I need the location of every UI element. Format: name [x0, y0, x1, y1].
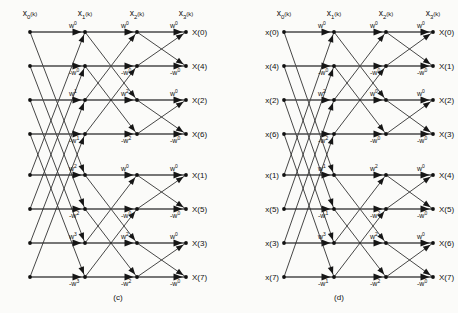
edge-arrowhead	[377, 124, 384, 132]
input-label-3: x(6)	[265, 130, 279, 139]
node-stage2-row2	[135, 98, 139, 102]
edge-arrowhead	[176, 102, 184, 109]
node-stage2-row4	[384, 173, 388, 177]
node-stage3-row0	[431, 30, 435, 34]
weight-s1-row5: -w1	[318, 210, 328, 219]
weight-s1-row7: -w3	[69, 278, 79, 287]
node-stage0-row7	[282, 275, 286, 279]
node-stage3-row1	[184, 64, 188, 68]
node-stage1-row2	[83, 98, 87, 102]
stage-label-3: x3(k)	[179, 8, 194, 20]
node-stage3-row3	[431, 132, 435, 136]
panel-c-svg: x0(k)x1(k)x2(k)x3(k) w0-w0w1-w1w2-w2w3-w…	[0, 0, 229, 313]
node-stage3-row5	[184, 207, 188, 211]
node-stage1-row6	[83, 241, 87, 245]
node-stage0-row5	[28, 207, 32, 211]
edge-arrowhead	[423, 268, 431, 275]
node-stage2-row5	[135, 207, 139, 211]
node-stage0-row2	[282, 98, 286, 102]
panel-c-fft-flowgraph: x0(k)x1(k)x2(k)x3(k) w0-w0w1-w1w2-w2w3-w…	[0, 0, 229, 313]
w-exponent: 0	[76, 67, 79, 73]
edge-arrowhead	[423, 200, 431, 207]
weight-s1-row2: w1	[68, 88, 77, 97]
node-stage0-row4	[28, 173, 32, 177]
w-exponent: 2	[126, 231, 129, 237]
weight-s1-row3: -w1	[69, 135, 79, 144]
w-exponent: 0	[323, 20, 326, 26]
figure-container: x0(k)x1(k)x2(k)x3(k) w0-w0w1-w1w2-w2w3-w…	[0, 0, 458, 313]
output-label-2: X(2)	[439, 96, 454, 105]
panel-c-io-labels: X(0)X(4)X(2)X(6)X(1)X(5)X(3)X(7)	[192, 28, 207, 282]
output-label-6: X(3)	[192, 239, 207, 248]
w-exponent: 1	[74, 88, 77, 94]
weight-s3-row4: w0	[416, 163, 425, 172]
panel-d-stage-labels: x0(k)x1(k)x2(k)x3(k)	[277, 8, 441, 20]
edge-arrowhead	[374, 240, 383, 247]
output-label-6: X(6)	[439, 239, 454, 248]
output-label-4: X(4)	[439, 171, 454, 180]
edge-arrowhead	[128, 267, 135, 275]
w-exponent: 0	[177, 210, 180, 216]
node-stage3-row4	[184, 173, 188, 177]
edge-arrowhead	[125, 97, 134, 104]
weight-s1-row0: w0	[317, 20, 326, 29]
node-stage2-row7	[135, 275, 139, 279]
edge-arrowhead	[374, 29, 383, 36]
panel-d-edges	[284, 29, 433, 281]
edge-arrowhead	[421, 97, 430, 104]
node-stage0-row2	[28, 98, 32, 102]
node-stage2-row6	[384, 241, 388, 245]
weight-s3-row1: -w0	[417, 67, 427, 76]
panel-d-weight-labels: w0-w0w2-w2w1-w1w3-w1w0-w0w0-w0w2-w2w2-w2…	[317, 20, 427, 287]
node-stage2-row3	[384, 132, 388, 136]
weight-s3-row4: w0	[169, 163, 178, 172]
edge-arrowhead	[328, 198, 333, 206]
w-exponent: 0	[422, 163, 425, 169]
output-label-7: X(7)	[192, 273, 207, 282]
node-stage0-row0	[282, 30, 286, 34]
weight-s3-row1: -w0	[170, 67, 180, 76]
input-label-6: x(3)	[265, 239, 279, 248]
edge-arrowhead	[128, 233, 135, 241]
edge-arrowhead	[128, 124, 135, 132]
w-exponent: 0	[325, 67, 328, 73]
w-exponent: 0	[424, 278, 427, 284]
weight-s2-row3: -w2	[121, 135, 131, 144]
node-stage1-row3	[332, 132, 336, 136]
node-stage1-row4	[83, 173, 87, 177]
edge-arrowhead	[176, 58, 184, 65]
weight-s2-row4: w2	[369, 163, 378, 172]
edge-arrowhead	[79, 198, 84, 206]
stage-label-arg: (k)	[137, 11, 144, 17]
edge-arrowhead	[79, 232, 84, 240]
stage-label-arg: (k)	[30, 11, 37, 17]
w-exponent: 0	[128, 210, 131, 216]
edge-arrowhead	[328, 232, 333, 240]
node-stage2-row0	[135, 30, 139, 34]
output-label-5: X(5)	[192, 205, 207, 214]
w-exponent: 0	[175, 88, 178, 94]
edge-arrowhead	[377, 233, 384, 241]
edge-arrowhead	[73, 97, 82, 104]
edge-arrowhead	[79, 164, 84, 172]
w-exponent: 0	[422, 88, 425, 94]
weight-s1-row5: -w2	[69, 210, 79, 219]
w-exponent: 0	[424, 210, 427, 216]
weight-s3-row7: -w0	[417, 278, 427, 287]
node-stage2-row4	[135, 173, 139, 177]
w-exponent: 0	[175, 231, 178, 237]
stage-label-arg: (k)	[85, 11, 92, 17]
node-stage3-row6	[431, 241, 435, 245]
edge-arrowhead	[328, 137, 333, 145]
edge-arrowhead	[377, 34, 384, 42]
w-exponent: 2	[76, 210, 79, 216]
node-stage0-row6	[28, 241, 32, 245]
node-stage0-row7	[28, 275, 32, 279]
panel-c-edges	[30, 29, 186, 281]
edge-arrowhead	[176, 177, 184, 184]
weight-s2-row7: -w2	[121, 278, 131, 287]
edge-arrowhead	[328, 266, 333, 274]
stage-label-0: x0(k)	[277, 8, 292, 20]
weight-s3-row3: -w0	[170, 135, 180, 144]
stage-label-0: x0(k)	[23, 8, 38, 20]
